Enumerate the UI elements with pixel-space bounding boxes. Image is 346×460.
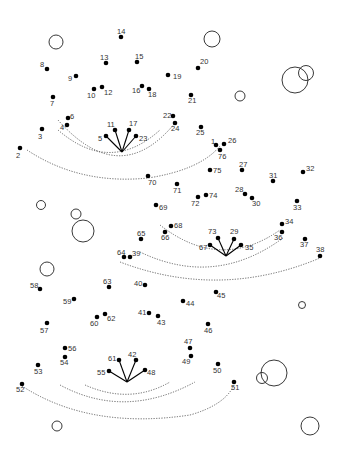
dot-13[interactable]: 13 — [100, 53, 108, 65]
dot-marker[interactable] — [65, 123, 70, 128]
dot-marker[interactable] — [140, 84, 145, 89]
dot-23[interactable]: 23 — [134, 134, 148, 143]
dot-marker[interactable] — [127, 128, 132, 133]
dot-75[interactable]: 75 — [208, 166, 222, 175]
dot-marker[interactable] — [301, 170, 306, 175]
dot-37[interactable]: 37 — [300, 237, 308, 249]
dot-marker[interactable] — [171, 114, 176, 119]
dot-58[interactable]: 58 — [30, 281, 42, 291]
dot-6[interactable]: 6 — [66, 112, 74, 121]
dot-56[interactable]: 56 — [63, 344, 77, 353]
dot-26[interactable]: 26 — [222, 136, 237, 146]
dot-marker[interactable] — [45, 67, 50, 72]
dot-marker[interactable] — [104, 134, 109, 139]
dot-49[interactable]: 49 — [182, 354, 193, 366]
dot-39[interactable]: 39 — [128, 249, 141, 259]
dot-42[interactable]: 42 — [128, 350, 138, 362]
dot-marker[interactable] — [243, 192, 248, 197]
dot-16[interactable]: 16 — [132, 84, 144, 95]
dot-marker[interactable] — [74, 74, 79, 79]
dot-34[interactable]: 34 — [280, 217, 294, 226]
dot-28[interactable]: 28 — [235, 185, 247, 196]
dot-40[interactable]: 40 — [134, 279, 147, 288]
dot-30[interactable]: 30 — [250, 196, 261, 208]
dot-57[interactable]: 57 — [40, 321, 49, 335]
dot-marker[interactable] — [169, 224, 174, 229]
dot-29[interactable]: 29 — [230, 227, 238, 241]
dot-18[interactable]: 18 — [147, 87, 157, 99]
dot-marker[interactable] — [280, 222, 285, 227]
dot-3[interactable]: 3 — [38, 127, 44, 141]
dot-marker[interactable] — [222, 142, 227, 147]
dot-59[interactable]: 59 — [63, 297, 76, 306]
dot-66[interactable]: 66 — [161, 230, 169, 242]
dot-marker[interactable] — [166, 73, 171, 78]
dot-67[interactable]: 67 — [199, 243, 212, 252]
dot-12[interactable]: 12 — [100, 85, 113, 97]
dot-15[interactable]: 15 — [135, 52, 144, 64]
dot-55[interactable]: 55 — [97, 368, 111, 377]
dot-70[interactable]: 70 — [146, 174, 157, 187]
dot-38[interactable]: 38 — [316, 245, 324, 258]
dot-73[interactable]: 73 — [208, 227, 220, 240]
dot-35[interactable]: 35 — [239, 243, 254, 252]
dot-36[interactable]: 36 — [274, 230, 284, 242]
dot-52[interactable]: 52 — [16, 382, 24, 394]
dot-68[interactable]: 68 — [169, 221, 183, 230]
dot-marker[interactable] — [204, 193, 209, 198]
dot-marker[interactable] — [239, 243, 244, 248]
dot-marker[interactable] — [72, 297, 77, 302]
dot-65[interactable]: 65 — [137, 229, 145, 241]
dot-marker[interactable] — [318, 254, 323, 259]
dot-5[interactable]: 5 — [98, 134, 108, 143]
dot-8[interactable]: 8 — [40, 60, 49, 71]
dot-47[interactable]: 47 — [184, 337, 192, 350]
dot-22[interactable]: 22 — [163, 111, 175, 120]
dot-9[interactable]: 9 — [68, 74, 78, 83]
dot-marker[interactable] — [208, 168, 213, 173]
dot-10[interactable]: 10 — [87, 87, 96, 100]
dot-64[interactable]: 64 — [117, 248, 126, 259]
dot-41[interactable]: 41 — [138, 308, 151, 317]
dot-54[interactable]: 54 — [60, 355, 68, 367]
dot-marker[interactable] — [147, 311, 152, 316]
dot-19[interactable]: 19 — [166, 72, 182, 81]
dot-2[interactable]: 2 — [16, 146, 22, 160]
dot-marker[interactable] — [117, 358, 122, 363]
dot-71[interactable]: 71 — [173, 182, 181, 195]
dot-marker[interactable] — [107, 369, 112, 374]
dot-45[interactable]: 45 — [214, 290, 226, 300]
dot-marker[interactable] — [38, 287, 43, 292]
dot-51[interactable]: 51 — [231, 380, 239, 392]
dot-marker[interactable] — [143, 283, 148, 288]
dot-marker[interactable] — [18, 146, 23, 151]
dot-marker[interactable] — [40, 127, 45, 132]
dot-24[interactable]: 24 — [171, 121, 179, 133]
dot-33[interactable]: 33 — [293, 199, 301, 212]
dot-14[interactable]: 14 — [117, 27, 125, 39]
dot-72[interactable]: 72 — [191, 195, 200, 208]
dot-31[interactable]: 31 — [269, 171, 277, 183]
dot-32[interactable]: 32 — [301, 164, 315, 174]
dot-74[interactable]: 74 — [204, 191, 218, 200]
dot-marker[interactable] — [188, 346, 193, 351]
dot-marker[interactable] — [216, 236, 221, 241]
dot-46[interactable]: 46 — [204, 322, 212, 335]
dot-marker[interactable] — [45, 321, 50, 326]
dot-50[interactable]: 50 — [213, 362, 221, 375]
dot-7[interactable]: 7 — [50, 95, 55, 108]
dot-21[interactable]: 21 — [188, 93, 196, 105]
dot-60[interactable]: 60 — [90, 315, 99, 328]
dot-marker[interactable] — [134, 134, 139, 139]
dot-marker[interactable] — [63, 346, 68, 351]
dot-marker[interactable] — [196, 66, 201, 71]
dot-marker[interactable] — [232, 237, 237, 242]
dot-25[interactable]: 25 — [196, 125, 204, 137]
dot-17[interactable]: 17 — [127, 119, 138, 132]
dot-69[interactable]: 69 — [154, 203, 168, 212]
dot-20[interactable]: 20 — [196, 57, 209, 70]
dot-4[interactable]: 4 — [60, 123, 69, 132]
dot-27[interactable]: 27 — [239, 160, 247, 172]
dot-11[interactable]: 11 — [107, 120, 117, 132]
dot-63[interactable]: 63 — [103, 277, 111, 289]
